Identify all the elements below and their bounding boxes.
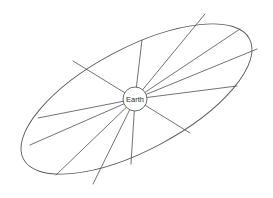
spoke-down-vertical bbox=[131, 111, 134, 164]
spoke-right-horizontal bbox=[147, 86, 237, 97]
spoke-up-vertical bbox=[136, 40, 142, 87]
sector-diagram-canvas: Earth bbox=[0, 0, 273, 198]
spoke-down-left-steep bbox=[56, 107, 126, 175]
spoke-up-left-steep bbox=[73, 61, 125, 93]
spoke-down-left-mid bbox=[93, 110, 130, 184]
spoke-up-right-mid bbox=[145, 29, 240, 92]
earth-label: Earth bbox=[126, 95, 144, 104]
spoke-down-right bbox=[145, 105, 190, 133]
center-body-group: Earth bbox=[123, 87, 147, 111]
spoke-up-right-shallow bbox=[146, 49, 257, 94]
spoke-up-right-steep bbox=[143, 14, 205, 90]
diagram-root: Earth bbox=[0, 0, 273, 198]
